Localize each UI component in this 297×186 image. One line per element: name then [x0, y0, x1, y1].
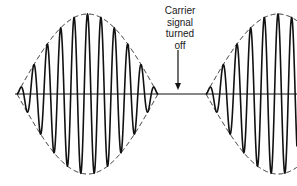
upper-envelope	[17, 14, 158, 94]
annotation-line: turned	[152, 28, 208, 40]
annotation-line: Carrier	[152, 5, 208, 17]
annotation-line: off	[152, 40, 208, 52]
upper-envelope	[206, 14, 297, 94]
carrier-off-annotation: Carrier signal turned off	[152, 5, 208, 51]
modulated-carrier-diagram	[0, 0, 297, 186]
annotation-line: signal	[152, 17, 208, 29]
down-arrow-icon	[175, 50, 181, 90]
